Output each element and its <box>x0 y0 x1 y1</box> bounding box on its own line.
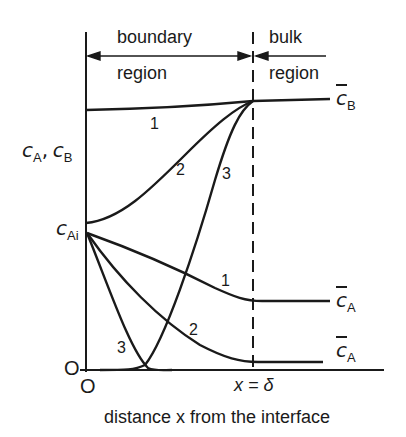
ca-curve-2-label: 2 <box>189 322 198 338</box>
boundary-region-label: region <box>117 64 167 82</box>
y-label-var-a: c <box>22 138 33 162</box>
ca-bar2-var: c <box>336 338 347 362</box>
c-ai-var: c <box>56 216 67 240</box>
y-label-sub-a: A <box>33 150 42 165</box>
x-axis-label: distance x from the interface <box>104 408 330 426</box>
c-ai-sub: Ai <box>67 228 79 243</box>
ca-bulk-label-1: cA <box>336 290 356 310</box>
y-label-sub-b: B <box>64 150 73 165</box>
ca-bar1-sub: A <box>347 300 356 315</box>
ca-curve-3-label: 3 <box>117 340 126 356</box>
ca-bulk-label-2: cA <box>336 340 356 360</box>
y-axis-label: cA, cB <box>22 140 72 160</box>
cb-curve-1-label: 1 <box>150 116 159 132</box>
delta-label: x = δ <box>234 376 274 394</box>
cb-curve-1 <box>86 99 330 110</box>
y-origin-label: O <box>64 358 80 378</box>
cb-bar-sub: B <box>347 98 356 113</box>
boundary-label: boundary <box>117 28 192 46</box>
cb-curve-3-label: 3 <box>222 166 231 182</box>
ca-curve-1 <box>87 233 330 301</box>
c-ai-label: cAi <box>56 218 79 238</box>
ca-bar2-sub: A <box>347 350 356 365</box>
ca-curve-1-label: 1 <box>221 273 230 289</box>
cb-curve-2 <box>86 101 253 223</box>
x-origin-label: O <box>80 376 96 396</box>
ca-curve-3 <box>87 233 172 370</box>
cb-bulk-label: cB <box>336 88 356 108</box>
bulk-region-label: region <box>269 64 319 82</box>
bulk-label: bulk <box>269 28 302 46</box>
cb-curve-2-label: 2 <box>176 162 185 178</box>
y-label-sep: , <box>42 138 48 162</box>
cb-bar-var: c <box>336 86 347 110</box>
bulk-region-arrow <box>256 52 326 60</box>
boundary-region-arrow <box>88 52 250 60</box>
y-label-var-b: c <box>53 138 64 162</box>
ca-bar1-var: c <box>336 288 347 312</box>
